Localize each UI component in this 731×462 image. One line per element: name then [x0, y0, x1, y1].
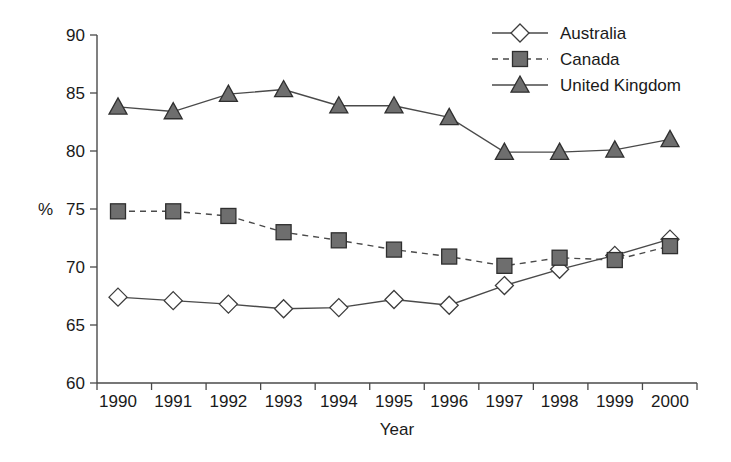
x-tick-label: 1999 — [596, 392, 634, 411]
marker-diamond-australia-1991 — [164, 292, 182, 310]
marker-diamond-legend-australia — [511, 24, 529, 42]
marker-diamond-australia-1994 — [330, 299, 348, 317]
marker-diamond-australia-1993 — [275, 300, 293, 318]
marker-triangle-united-kingdom-1990 — [109, 98, 127, 114]
marker-square-canada-2000 — [663, 239, 678, 254]
marker-diamond-australia-1992 — [219, 295, 237, 313]
marker-square-canada-1997 — [497, 258, 512, 273]
marker-square-canada-1992 — [221, 208, 236, 223]
marker-square-canada-1994 — [331, 233, 346, 248]
y-tick-label: 80 — [66, 142, 85, 161]
marker-square-canada-1993 — [276, 225, 291, 240]
y-tick-label: 60 — [66, 374, 85, 393]
y-axis: 60657075808590 — [66, 26, 97, 393]
legend-label-australia: Australia — [560, 24, 627, 43]
marker-triangle-united-kingdom-1994 — [330, 97, 348, 113]
marker-square-legend-canada — [513, 52, 528, 67]
marker-square-canada-1990 — [111, 204, 126, 219]
marker-diamond-australia-1997 — [495, 277, 513, 295]
x-tick-label: 1994 — [320, 392, 358, 411]
y-tick-label: 75 — [66, 200, 85, 219]
legend-label-canada: Canada — [560, 50, 620, 69]
y-axis-title: % — [38, 200, 53, 219]
legend-item-united-kingdom: United Kingdom — [492, 76, 681, 95]
marker-diamond-australia-1990 — [109, 288, 127, 306]
marker-square-canada-1991 — [166, 204, 181, 219]
x-axis: 1990199119921993199419951996199719981999… — [97, 383, 697, 411]
y-tick-label: 65 — [66, 316, 85, 335]
marker-triangle-united-kingdom-1993 — [275, 81, 293, 97]
x-tick-label: 2000 — [651, 392, 689, 411]
y-tick-label: 85 — [66, 84, 85, 103]
marker-triangle-united-kingdom-2000 — [661, 130, 679, 146]
legend-label-united-kingdom: United Kingdom — [560, 76, 681, 95]
legend-item-canada: Canada — [492, 50, 620, 69]
marker-square-canada-1996 — [442, 249, 457, 264]
y-tick-label: 90 — [66, 26, 85, 45]
x-tick-label: 1995 — [375, 392, 413, 411]
x-axis-title: Year — [380, 420, 415, 439]
x-tick-label: 1998 — [541, 392, 579, 411]
x-tick-label: 1992 — [209, 392, 247, 411]
legend-item-australia: Australia — [492, 24, 627, 43]
marker-diamond-australia-1995 — [385, 290, 403, 308]
x-tick-label: 1996 — [430, 392, 468, 411]
x-tick-label: 1990 — [99, 392, 137, 411]
marker-triangle-united-kingdom-1995 — [385, 97, 403, 113]
series-canada — [111, 204, 678, 274]
chart-canvas: 60657075808590 1990199119921993199419951… — [0, 0, 731, 462]
marker-square-canada-1998 — [552, 250, 567, 265]
data-series-group — [109, 81, 679, 318]
marker-triangle-united-kingdom-1997 — [495, 143, 513, 159]
line-chart: 60657075808590 1990199119921993199419951… — [0, 0, 731, 462]
y-tick-label: 70 — [66, 258, 85, 277]
x-tick-label: 1993 — [265, 392, 303, 411]
chart-legend: AustraliaCanadaUnited Kingdom — [492, 24, 681, 95]
x-tick-label: 1991 — [154, 392, 192, 411]
marker-square-canada-1995 — [387, 242, 402, 257]
marker-square-canada-1999 — [607, 253, 622, 268]
marker-triangle-legend-united-kingdom — [511, 76, 529, 92]
marker-diamond-australia-1996 — [440, 296, 458, 314]
x-tick-label: 1997 — [485, 392, 523, 411]
